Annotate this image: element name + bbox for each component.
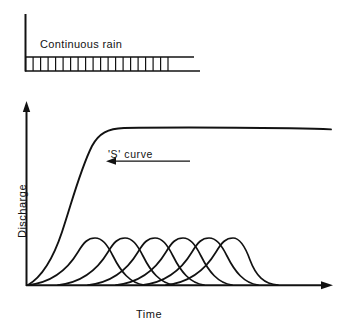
- main-chart: [23, 101, 333, 289]
- unit-hydrograph-6: [166, 238, 278, 285]
- unit-hydrograph-1: [28, 238, 144, 285]
- figure-root: Continuous rain 'S' curve Discharge Time: [0, 0, 346, 326]
- rain-panel-caption: Continuous rain: [40, 38, 122, 50]
- s-curve: [28, 128, 331, 285]
- y-axis-label: Discharge: [16, 166, 28, 256]
- unit-hydrograph-group: [28, 238, 278, 285]
- rain-block-ticks: [26, 57, 168, 71]
- y-axis-arrowhead-icon: [23, 101, 30, 112]
- x-axis-arrowhead-icon: [321, 281, 333, 289]
- unit-hydrograph-4: [116, 238, 232, 285]
- x-axis-label: Time: [136, 308, 162, 320]
- s-curve-annotation-label: 'S' curve: [108, 148, 153, 160]
